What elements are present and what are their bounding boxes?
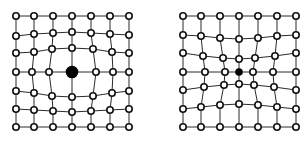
grid-node bbox=[69, 13, 75, 19]
grid-node bbox=[49, 93, 55, 99]
grid-node bbox=[274, 33, 280, 39]
grid-node bbox=[31, 107, 37, 113]
grid-node bbox=[88, 124, 94, 130]
grid-node bbox=[293, 106, 299, 112]
grid-node bbox=[202, 69, 208, 75]
grid-node bbox=[180, 32, 186, 38]
grid-node bbox=[31, 13, 37, 19]
grid-node bbox=[180, 87, 186, 93]
grid-node bbox=[293, 69, 299, 75]
grid-node bbox=[220, 55, 226, 61]
grid-node bbox=[13, 50, 19, 56]
grid-node bbox=[107, 124, 113, 130]
grid-node bbox=[69, 94, 75, 100]
grid-node bbox=[88, 30, 94, 36]
grid-node bbox=[107, 107, 113, 113]
grid-node bbox=[236, 124, 242, 130]
grid-node bbox=[200, 53, 206, 59]
grid-node bbox=[272, 53, 278, 59]
grid-node bbox=[201, 84, 207, 90]
grid-node bbox=[90, 93, 96, 99]
grid-node bbox=[13, 69, 19, 75]
grid-node bbox=[217, 102, 223, 108]
grid-node bbox=[50, 13, 56, 19]
grid-node bbox=[126, 32, 132, 38]
grid-node bbox=[217, 13, 223, 19]
grid-node bbox=[250, 69, 256, 75]
grid-node bbox=[31, 49, 37, 55]
grid-node bbox=[13, 124, 19, 130]
grid-node bbox=[221, 82, 227, 88]
grid-node bbox=[126, 106, 132, 112]
grid-node bbox=[180, 13, 186, 19]
grid-node bbox=[107, 13, 113, 19]
grid-node bbox=[109, 49, 115, 55]
grid-node bbox=[222, 69, 228, 75]
grid-node bbox=[270, 69, 276, 75]
grid-node bbox=[255, 124, 261, 130]
grid-node bbox=[50, 108, 56, 114]
grid-node bbox=[126, 13, 132, 19]
grid-node bbox=[271, 84, 277, 90]
grid-node bbox=[13, 106, 19, 112]
grid-node bbox=[255, 102, 261, 108]
grid-node bbox=[217, 35, 223, 41]
grid-node bbox=[110, 69, 116, 75]
grid-node bbox=[293, 32, 299, 38]
grid-node bbox=[69, 124, 75, 130]
grid-node bbox=[13, 13, 19, 19]
grid-node bbox=[180, 50, 186, 56]
center-node bbox=[67, 67, 78, 78]
grid-node bbox=[236, 56, 242, 62]
grid-node bbox=[217, 124, 223, 130]
grid-node bbox=[90, 46, 96, 52]
grid-node bbox=[274, 13, 280, 19]
grid-node bbox=[255, 35, 261, 41]
grid-node bbox=[198, 13, 204, 19]
grid-node bbox=[236, 81, 242, 87]
left-grid-panel bbox=[13, 13, 132, 130]
grid-node bbox=[69, 45, 75, 51]
grid-node bbox=[69, 29, 75, 35]
grid-node bbox=[31, 124, 37, 130]
grid-node bbox=[198, 33, 204, 39]
grid-node bbox=[274, 124, 280, 130]
grid-node bbox=[88, 13, 94, 19]
grid-node bbox=[46, 69, 52, 75]
grid-node bbox=[31, 90, 37, 96]
grid-node bbox=[107, 31, 113, 37]
grid-node bbox=[69, 109, 75, 115]
grid-node bbox=[198, 104, 204, 110]
grid-node bbox=[255, 13, 261, 19]
grid-node bbox=[126, 88, 132, 94]
grid-node bbox=[126, 50, 132, 56]
grid-node bbox=[252, 55, 258, 61]
grid-node bbox=[93, 69, 99, 75]
grid-node bbox=[236, 101, 242, 107]
grid-node bbox=[50, 30, 56, 36]
grid-node bbox=[180, 106, 186, 112]
grid-node bbox=[13, 33, 19, 39]
grid-node bbox=[109, 90, 115, 96]
grid-node bbox=[88, 108, 94, 114]
grid-node bbox=[13, 88, 19, 94]
grid-node bbox=[49, 46, 55, 52]
grid-node bbox=[293, 87, 299, 93]
grid-node bbox=[236, 36, 242, 42]
grid-node bbox=[126, 124, 132, 130]
center-node bbox=[236, 69, 242, 75]
grid-node bbox=[180, 124, 186, 130]
left-grid-nodes bbox=[13, 13, 132, 130]
grid-node bbox=[293, 13, 299, 19]
grid-node bbox=[31, 31, 37, 37]
grid-node bbox=[236, 13, 242, 19]
grid-node bbox=[29, 69, 35, 75]
grid-node bbox=[50, 124, 56, 130]
right-grid-panel bbox=[180, 13, 299, 130]
grid-node bbox=[180, 69, 186, 75]
grid-node bbox=[251, 82, 257, 88]
grid-node bbox=[293, 50, 299, 56]
grid-node bbox=[274, 104, 280, 110]
grid-node bbox=[198, 124, 204, 130]
grid-node bbox=[126, 69, 132, 75]
